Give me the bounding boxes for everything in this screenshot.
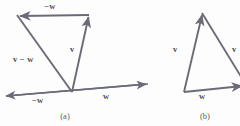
panel-a-label-axis-minus-w: −w bbox=[32, 95, 44, 105]
panel-a-label-v-minus-w: v − w bbox=[13, 54, 34, 64]
panel-b-label-w: w bbox=[199, 91, 206, 101]
panel-a-label-v: v bbox=[70, 44, 75, 54]
panel-b-label-v-minus-w: v bbox=[232, 44, 237, 54]
panel-b-label-v: v bbox=[173, 44, 178, 54]
vector-figure: −w v − w v −w w (a) v w v (b) bbox=[0, 0, 240, 126]
vector-diagram-canvas: −w v − w v −w w (a) v w v (b) bbox=[0, 0, 240, 126]
panel-a-vector-minus-w bbox=[20, 15, 89, 16]
figure-background bbox=[0, 0, 240, 126]
panel-b-caption: (b) bbox=[200, 111, 210, 121]
panel-a-label-top-minus-w: −w bbox=[44, 1, 56, 11]
panel-a-caption: (a) bbox=[60, 111, 70, 121]
panel-a-label-axis-w: w bbox=[103, 91, 110, 101]
